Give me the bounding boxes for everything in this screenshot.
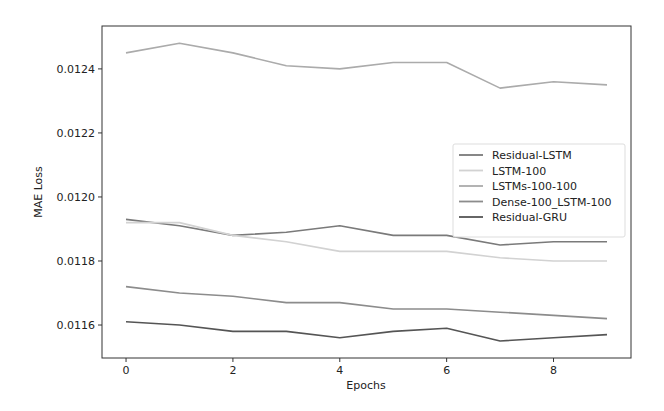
y-tick-label: 0.0124 bbox=[57, 63, 96, 76]
x-tick-label: 0 bbox=[123, 364, 130, 377]
series-line-residual-gru bbox=[126, 322, 607, 341]
y-axis-ticks: 0.01160.01180.01200.01220.0124 bbox=[57, 63, 103, 332]
y-tick-label: 0.0116 bbox=[57, 319, 96, 332]
y-axis-label: MAE Loss bbox=[32, 166, 45, 218]
x-tick-label: 6 bbox=[443, 364, 450, 377]
y-tick-label: 0.0120 bbox=[57, 191, 96, 204]
legend: Residual-LSTMLSTM-100LSTMs-100-100Dense-… bbox=[453, 144, 625, 237]
series-line-dense-100-lstm-100 bbox=[126, 287, 607, 319]
y-tick-label: 0.0118 bbox=[57, 255, 96, 268]
legend-label: Dense-100_LSTM-100 bbox=[492, 196, 611, 209]
legend-label: Residual-GRU bbox=[492, 211, 567, 224]
x-axis-label: Epochs bbox=[346, 379, 386, 392]
legend-label: Residual-LSTM bbox=[492, 149, 572, 162]
y-tick-label: 0.0122 bbox=[57, 127, 96, 140]
x-axis-ticks: 02468 bbox=[123, 358, 557, 377]
x-tick-label: 2 bbox=[229, 364, 236, 377]
x-tick-label: 4 bbox=[336, 364, 343, 377]
series-line-lstms-100-100 bbox=[126, 43, 607, 88]
line-chart: 02468 0.01160.01180.01200.01220.0124 Epo… bbox=[0, 0, 664, 411]
legend-label: LSTM-100 bbox=[492, 165, 546, 178]
x-tick-label: 8 bbox=[550, 364, 557, 377]
legend-label: LSTMs-100-100 bbox=[492, 180, 577, 193]
